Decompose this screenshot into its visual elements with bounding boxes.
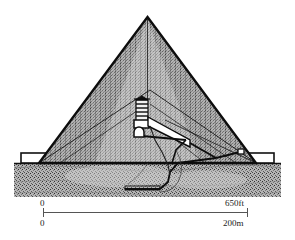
diagram-canvas bbox=[0, 0, 295, 200]
scale-label-feet-zero: 0 bbox=[40, 198, 45, 208]
pyramid-svg bbox=[0, 0, 295, 200]
pyramid-cross-section-figure: 0 650ft 0 200m bbox=[0, 0, 295, 240]
kings-chamber bbox=[134, 120, 149, 128]
queens-chamber bbox=[134, 127, 144, 137]
scale-bar: 0 650ft 0 200m bbox=[0, 198, 295, 240]
scale-label-meters-max: 200m bbox=[223, 218, 244, 228]
scale-label-meters-zero: 0 bbox=[40, 218, 45, 228]
bedrock-ground bbox=[14, 163, 281, 197]
scale-bar-tick-end bbox=[247, 208, 248, 217]
scale-bar-tick-start bbox=[43, 208, 44, 217]
scale-bar-rule bbox=[43, 212, 248, 213]
scale-label-feet-max: 650ft bbox=[225, 198, 244, 208]
pyramid-body bbox=[39, 17, 256, 163]
